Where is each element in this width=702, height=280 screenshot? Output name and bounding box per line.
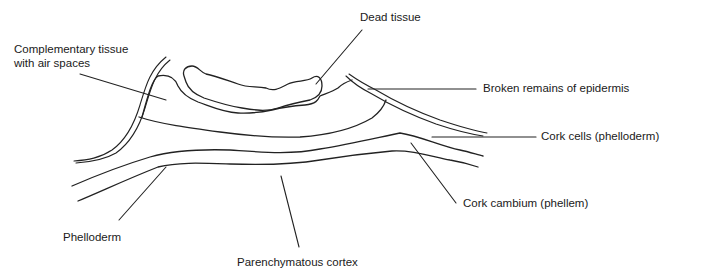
label-cork-cambium: Cork cambium (phellem)	[463, 197, 588, 211]
label-parenchymatous-cortex: Parenchymatous cortex	[237, 256, 358, 270]
cork-upper-boundary	[139, 100, 386, 137]
leader-dead-tissue	[316, 30, 362, 84]
leader-complementary-tissue	[80, 74, 166, 100]
leader-phelloderm	[119, 167, 166, 220]
label-phelloderm: Phelloderm	[63, 231, 121, 245]
leader-cork-cambium	[411, 143, 456, 203]
label-cork-cells: Cork cells (phelloderm)	[541, 130, 659, 144]
complementary-tissue-outline	[142, 75, 352, 117]
label-broken-epidermis: Broken remains of epidermis	[483, 82, 629, 96]
cork-cambium-upper-line	[72, 133, 483, 186]
label-dead-tissue: Dead tissue	[360, 11, 421, 25]
left-epidermis-fragment	[74, 57, 170, 163]
label-complementary-tissue: Complementary tissue with air spaces	[14, 43, 128, 70]
cork-cambium-lower-line	[78, 151, 478, 201]
label-complementary-tissue-line2: with air spaces	[14, 57, 128, 71]
label-complementary-tissue-line1: Complementary tissue	[14, 43, 128, 57]
right-epidermis-fragment	[346, 74, 487, 136]
leader-parenchymatous-cortex	[281, 176, 299, 247]
